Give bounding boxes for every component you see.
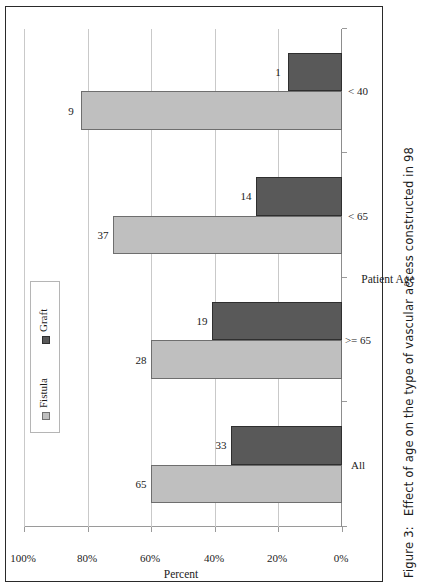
y-tick-label: 80% xyxy=(68,552,106,564)
legend-label-graft: Graft xyxy=(37,309,49,332)
axis-tick xyxy=(24,527,25,532)
y-axis-title: Percent xyxy=(164,568,198,580)
axis-tick xyxy=(151,527,152,532)
category-tick xyxy=(342,153,347,154)
x-tick-label: >= 65 xyxy=(335,334,381,346)
data-label: 19 xyxy=(189,315,215,327)
data-label: 33 xyxy=(208,439,234,451)
caption-text: Effect of age on the type of vascular ac… xyxy=(402,147,416,516)
x-tick-label: < 40 xyxy=(335,85,381,97)
bar-fistula-2[interactable] xyxy=(113,216,342,255)
axis-tick xyxy=(278,527,279,532)
legend-swatch-fistula xyxy=(42,412,50,420)
data-label: 37 xyxy=(90,229,116,241)
x-tick-label: < 65 xyxy=(335,210,381,222)
category-tick xyxy=(342,277,347,278)
chart-canvas: 0%20%40%60%80%100% All>= 65< 65< 40 Perc… xyxy=(6,7,384,583)
category-tick xyxy=(342,402,347,403)
figure-border: 0%20%40%60%80%100% All>= 65< 65< 40 Perc… xyxy=(5,6,383,582)
data-label: 65 xyxy=(128,478,154,490)
bar-graft-1[interactable] xyxy=(212,302,342,341)
data-label: 1 xyxy=(265,66,291,78)
category-tick xyxy=(342,526,347,527)
bar-fistula-1[interactable] xyxy=(151,340,342,379)
bar-graft-2[interactable] xyxy=(256,177,342,216)
axis-tick xyxy=(342,527,343,532)
bar-graft-0[interactable] xyxy=(231,426,342,465)
y-tick-label: 0% xyxy=(322,552,360,564)
legend-swatch-graft xyxy=(42,336,50,344)
axis-tick xyxy=(215,527,216,532)
y-tick-label: 40% xyxy=(195,552,233,564)
axis-tick xyxy=(88,527,89,532)
data-label: 9 xyxy=(58,105,84,117)
y-tick-label: 60% xyxy=(131,552,169,564)
bar-graft-3[interactable] xyxy=(288,53,342,92)
y-tick-label: 20% xyxy=(258,552,296,564)
x-tick-label: All xyxy=(335,459,381,471)
data-label: 14 xyxy=(233,190,259,202)
gridline xyxy=(24,29,25,527)
y-tick-label: 100% xyxy=(4,552,42,564)
plot-area xyxy=(24,29,342,527)
bar-fistula-3[interactable] xyxy=(81,91,342,130)
figure-caption: Figure 3: Effect of age on the type of v… xyxy=(389,0,421,588)
bar-fistula-0[interactable] xyxy=(151,465,342,504)
value-axis-line xyxy=(24,526,342,527)
legend-label-fistula: Fistula xyxy=(37,378,49,408)
data-label: 28 xyxy=(128,354,154,366)
legend-box: FistulaGraft xyxy=(30,281,60,433)
category-tick xyxy=(342,28,347,29)
caption-label: Figure 3: xyxy=(402,526,416,578)
